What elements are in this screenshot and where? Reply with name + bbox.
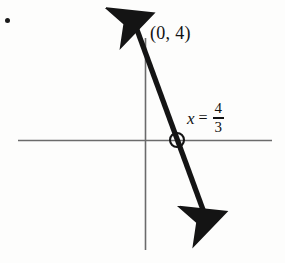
y-intercept-label: (0, 4) [150,24,191,42]
fraction-four-thirds: 4 3 [213,101,225,135]
x-intercept-label: x = 4 3 [187,101,224,135]
x-variable-glyph: x [187,110,196,127]
graph-canvas [0,0,285,263]
equals-glyph: = [199,110,208,126]
fraction-numerator: 4 [213,101,225,117]
graph-figure: (0, 4) x = 4 3 [0,0,285,263]
corner-bullet-dot [5,18,10,23]
fraction-denominator: 3 [213,119,225,135]
